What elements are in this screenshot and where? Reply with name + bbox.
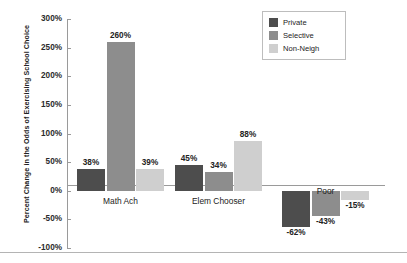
bar-value-label: 39% xyxy=(130,158,170,167)
legend-item-selective[interactable]: Selective xyxy=(269,29,340,42)
bar-selective xyxy=(107,42,135,191)
category-label: Elem Chooser xyxy=(157,196,280,206)
bar-private xyxy=(77,169,105,191)
legend-item-private[interactable]: Private xyxy=(269,16,340,29)
bar-selective xyxy=(205,172,233,191)
legend-label-nonneigh: Non-Neigh xyxy=(283,44,319,53)
bar-value-label: -15% xyxy=(335,201,375,210)
legend-swatch-private-icon xyxy=(269,18,278,27)
bar-value-label: 34% xyxy=(199,161,239,170)
bar-non-neigh xyxy=(234,141,262,191)
bar-value-label: -62% xyxy=(276,228,316,237)
category-label: Poor xyxy=(264,186,387,196)
legend-label-private: Private xyxy=(283,18,307,27)
legend-swatch-selective-icon xyxy=(269,31,278,40)
bar-value-label: 38% xyxy=(71,158,111,167)
legend-swatch-nonneigh-icon xyxy=(269,44,278,53)
bar-value-label: -43% xyxy=(306,217,346,226)
bar-non-neigh xyxy=(136,169,164,191)
legend-item-nonneigh[interactable]: Non-Neigh xyxy=(269,42,340,55)
legend: Private Selective Non-Neigh xyxy=(262,11,346,60)
bar-value-label: 260% xyxy=(101,31,141,40)
bar-chart: Percent Change in the Odds of Exercising… xyxy=(0,0,407,263)
legend-label-selective: Selective xyxy=(283,31,314,40)
bar-value-label: 88% xyxy=(228,130,268,139)
